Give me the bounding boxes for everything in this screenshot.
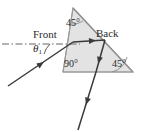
- prism-ray-diagram: Front Back θ1 45° 90° 45°: [0, 0, 144, 132]
- right-angle-label: 90°: [64, 59, 78, 69]
- theta-angle-arc: [44, 44, 50, 54]
- front-face-label: Front: [33, 29, 57, 40]
- incidence-angle-label: θ1: [33, 43, 42, 56]
- back-face-label: Back: [96, 28, 119, 39]
- exit-ray-arrowhead: [83, 97, 91, 105]
- base-angle-label: 45°: [112, 59, 126, 69]
- apex-angle-label: 45°: [66, 18, 80, 28]
- theta-subscript: 1: [38, 48, 42, 56]
